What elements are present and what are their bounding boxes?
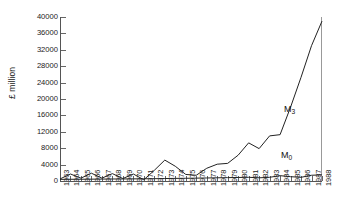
chart-container: £ million 040008000120001600020000240002… (0, 0, 338, 215)
series-label-m0: M0 (281, 150, 292, 160)
series-label-m3: M3 (284, 104, 295, 114)
